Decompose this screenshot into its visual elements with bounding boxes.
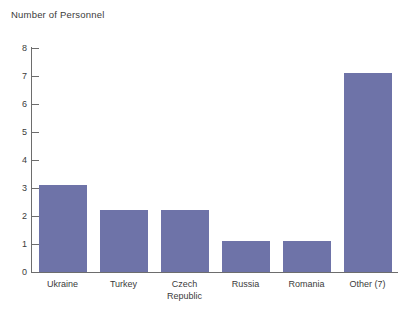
x-axis-label: Ukraine <box>32 279 93 291</box>
x-axis-line <box>31 272 398 273</box>
bar <box>344 73 392 272</box>
y-axis-tick-2 <box>32 216 39 217</box>
y-axis-tick-label-2: 2 <box>7 211 27 221</box>
x-axis-label: Czech Republic <box>154 279 215 302</box>
bar <box>161 210 209 272</box>
bar <box>100 210 148 272</box>
y-axis: 012345678 <box>0 0 27 316</box>
y-axis-tick-label-0: 0 <box>7 267 27 277</box>
y-axis-tick-6 <box>32 104 39 105</box>
bar-chart: Number of Personnel 012345678 UkraineTur… <box>0 0 408 316</box>
y-axis-tick-4 <box>32 160 39 161</box>
y-axis-tick-1 <box>32 244 39 245</box>
x-axis-label: Russia <box>215 279 276 291</box>
y-axis-tick-0 <box>32 272 39 273</box>
y-axis-tick-8 <box>32 48 39 49</box>
x-axis-label: Other (7) <box>337 279 398 291</box>
x-axis-label: Turkey <box>93 279 154 291</box>
bar <box>39 185 87 272</box>
y-axis-tick-5 <box>32 132 39 133</box>
x-axis-category-labels: UkraineTurkeyCzech RepublicRussiaRomania… <box>32 279 398 315</box>
bar <box>222 241 270 272</box>
x-axis-label: Romania <box>276 279 337 291</box>
bar <box>283 241 331 272</box>
y-axis-tick-label-3: 3 <box>7 183 27 193</box>
y-axis-tick-label-5: 5 <box>7 127 27 137</box>
y-axis-tick-label-8: 8 <box>7 43 27 53</box>
bars-layer <box>32 48 398 272</box>
y-axis-tick-label-7: 7 <box>7 71 27 81</box>
y-axis-tick-label-4: 4 <box>7 155 27 165</box>
y-axis-tick-label-6: 6 <box>7 99 27 109</box>
y-axis-tick-label-1: 1 <box>7 239 27 249</box>
y-axis-tick-3 <box>32 188 39 189</box>
y-axis-tick-7 <box>32 76 39 77</box>
